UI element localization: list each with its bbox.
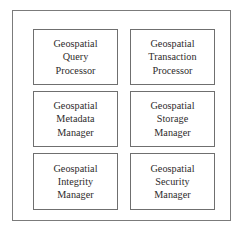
component-box-geospatial-security-manager[interactable]: Geospatial Security Manager [130,153,215,210]
component-label-line-3: Manager [154,188,191,201]
component-box-geospatial-transaction-processor[interactable]: Geospatial Transaction Processor [130,29,215,85]
component-label-line-2: Security [155,175,189,188]
component-label-line-1: Geospatial [150,37,194,50]
component-label-line-1: Geospatial [150,162,194,175]
component-grid: Geospatial Query Processor Geospatial Tr… [33,29,215,210]
component-label-line-1: Geospatial [150,99,194,112]
component-label-line-3: Processor [55,64,95,77]
component-label-line-3: Manager [154,126,191,139]
component-label-line-3: Processor [152,64,192,77]
outer-container-frame: Geospatial Query Processor Geospatial Tr… [12,10,231,221]
component-label-line-1: Geospatial [53,37,97,50]
component-label-line-2: Query [63,50,89,63]
component-box-geospatial-storage-manager[interactable]: Geospatial Storage Manager [130,91,215,147]
component-box-geospatial-query-processor[interactable]: Geospatial Query Processor [33,29,118,85]
component-label-line-2: Metadata [56,112,94,125]
component-label-line-3: Manager [57,188,94,201]
component-label-line-2: Storage [157,112,188,125]
component-label-line-3: Manager [57,126,94,139]
component-box-geospatial-integrity-manager[interactable]: Geospatial Integrity Manager [33,153,118,210]
component-label-line-1: Geospatial [53,99,97,112]
diagram-canvas: Geospatial Query Processor Geospatial Tr… [0,0,245,231]
component-label-line-2: Transaction [148,50,196,63]
component-label-line-2: Integrity [58,175,94,188]
component-box-geospatial-metadata-manager[interactable]: Geospatial Metadata Manager [33,91,118,147]
component-label-line-1: Geospatial [53,162,97,175]
